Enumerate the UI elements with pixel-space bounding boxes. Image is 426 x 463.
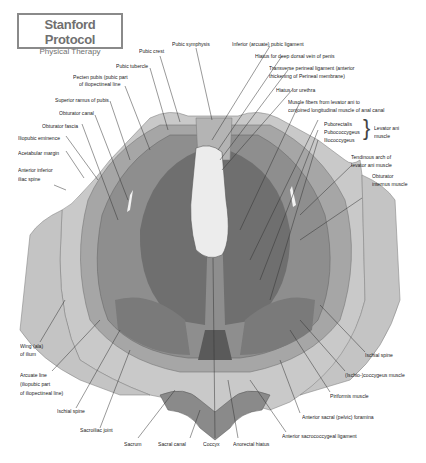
label-obturator-internus-line2: internus muscle [372, 180, 408, 187]
label-inferior-pubic-ligament: Inferior (arcuate) pubic ligament [232, 40, 304, 47]
label-sacrum: Sacrum [124, 440, 141, 447]
label-anorectal-hiatus: Anorectal hiatus [233, 440, 269, 447]
label-levator-ani-line2: muscle [374, 132, 390, 139]
label-ischial-spine-right: Ischial spine [365, 351, 393, 358]
label-anterior-sacral-foramina: Anterior sacral (pelvic) foramina [302, 413, 374, 420]
label-tendinous-arch-line2: levator ani muscle [351, 161, 392, 168]
label-piriformis: Piriformis muscle [330, 392, 369, 399]
label-pecten-pubis-line2: of iliopectineal line [79, 80, 120, 87]
label-anterior-inferior-iliac-line1: Anterior inferior [18, 166, 53, 173]
label-iliopubic-eminence: Iliopubic eminence [18, 134, 60, 141]
brace-levator-ani: } [363, 117, 370, 139]
label-pubic-tubercle: Pubic tubercle [116, 62, 148, 69]
label-obturator-canal: Obturator canal [59, 109, 94, 116]
label-levator-ani-line1: Levator ani [374, 124, 399, 131]
label-arcuate-line-line3: of iliopectineal line) [20, 389, 63, 396]
label-hiatus-dorsal-vein: Hiatus for deep dorsal vein of penis [255, 52, 335, 59]
label-obturator-fascia: Obturator fascia [42, 122, 78, 129]
label-obturator-internus-line1: Obturator [372, 172, 393, 179]
label-acetabular-margin: Acetabular margin [18, 149, 59, 156]
label-sacral-canal: Sacral canal [158, 440, 186, 447]
label-pubococcygeus: Pubococcygeus [324, 128, 360, 135]
label-pubic-symphysis: Pubic symphysis [172, 40, 210, 47]
label-muscle-fibers-line2: conjoined longitudinal muscle of anal ca… [288, 106, 384, 113]
label-pubic-crest: Pubic crest [139, 47, 164, 54]
label-transverse-perineal-line2: thickening of Perineal membrane) [269, 72, 345, 79]
label-anterior-inferior-iliac-line2: iliac spine [18, 175, 40, 182]
label-ischio-coccygeus: (Ischio-)coccygeus muscle [345, 371, 405, 378]
label-puborectalis: Puborectalis [324, 120, 352, 127]
label-coccyx: Coccyx [203, 440, 220, 447]
label-muscle-fibers-line1: Muscle fibers from levator ani to [288, 98, 360, 105]
label-iliococcygeus: Iliococcygeus [324, 136, 354, 143]
label-ischial-spine-left: Ischial spine [57, 407, 85, 414]
label-hiatus-urethra: Hiatus for urethra [276, 86, 315, 93]
label-wing-ilium-line2: of ilium [20, 350, 36, 357]
label-transverse-perineal-line1: Transverse perineal ligament (anterior [269, 64, 355, 71]
label-wing-ilium-line1: Wing (ala) [20, 342, 43, 349]
label-superior-ramus: Superior ramus of pubis [55, 96, 109, 103]
label-arcuate-line-line2: (iliopubic part [20, 380, 50, 387]
label-pecten-pubis-line1: Pecten pubis (pubic part [73, 73, 128, 80]
label-tendinous-arch-line1: Tendinous arch of [351, 153, 391, 160]
label-anterior-sacrococcygeal: Anterior sacrococcygeal ligament [282, 432, 357, 439]
label-sacroiliac-joint: Sacroiliac joint [80, 426, 113, 433]
label-arcuate-line-line1: Arcuate line [20, 371, 47, 378]
urethra-structure [191, 146, 229, 258]
